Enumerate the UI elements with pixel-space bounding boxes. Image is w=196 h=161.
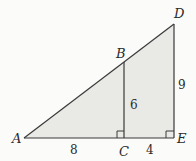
- point-label-E: E: [176, 131, 187, 146]
- measure-AC: 8: [70, 143, 78, 157]
- point-label-D: D: [173, 6, 185, 21]
- point-label-C: C: [119, 144, 129, 159]
- measure-BC: 6: [130, 98, 138, 112]
- triangle-diagram: A B C D E 8 4 6 9: [0, 0, 196, 161]
- point-label-A: A: [11, 131, 21, 146]
- measure-CE: 4: [146, 143, 154, 157]
- point-label-B: B: [115, 46, 126, 61]
- measure-DE: 9: [178, 78, 186, 92]
